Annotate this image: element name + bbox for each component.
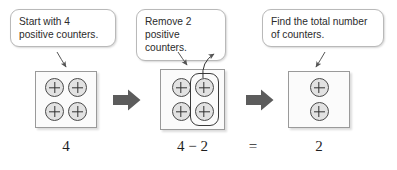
counter-column-left: [45, 78, 64, 121]
counter-column-left: [172, 78, 191, 121]
equation-term-left: 4: [35, 138, 97, 155]
positive-counter-icon: [310, 102, 329, 121]
leader-arrow-callout3: [316, 52, 325, 67]
positive-counter-icon: [195, 78, 214, 97]
counter-column-right-removed: [195, 78, 214, 121]
diagram-canvas: Start with 4 positive counters. Remove 2…: [0, 0, 397, 170]
transition-arrow-1-icon: [113, 89, 141, 111]
callout-start-with-4: Start with 4 positive counters.: [10, 9, 116, 47]
positive-counter-icon: [195, 102, 214, 121]
counter-grid-step-3: [289, 72, 349, 127]
positive-counter-icon: [310, 78, 329, 97]
equation-term-middle: 4 − 2: [155, 138, 230, 155]
counter-box-step-2: [160, 69, 225, 130]
counter-grid-step-2: [161, 70, 224, 129]
counter-box-step-1: [35, 71, 97, 128]
callout-find-total: Find the total number of counters.: [262, 9, 384, 47]
counter-column-result: [310, 78, 329, 121]
leader-arrow-callout1: [57, 52, 66, 67]
positive-counter-icon: [68, 102, 87, 121]
positive-counter-icon: [172, 78, 191, 97]
positive-counter-icon: [45, 102, 64, 121]
counter-column-right: [68, 78, 87, 121]
counter-columns-step-2: [172, 78, 214, 121]
positive-counter-icon: [172, 102, 191, 121]
counter-columns-step-1: [45, 78, 87, 121]
counter-grid-step-1: [36, 72, 96, 127]
equation-term-right: 2: [288, 138, 350, 155]
transition-arrow-2-icon: [246, 89, 274, 111]
equation-equals-sign: =: [238, 138, 268, 155]
positive-counter-icon: [68, 78, 87, 97]
positive-counter-icon: [45, 78, 64, 97]
callout-remove-2: Remove 2 positive counters.: [136, 9, 226, 61]
counter-box-step-3: [288, 71, 350, 128]
